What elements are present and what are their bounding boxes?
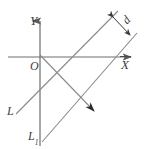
line-L1-stroke — [42, 33, 137, 142]
line-L-label: L — [7, 105, 14, 117]
line-L1-label-subscript: 1 — [35, 138, 39, 147]
line-L1-label-base: L — [28, 129, 35, 143]
geometry-figure: Y X O L L1 d — [0, 0, 147, 149]
origin-label: O — [30, 60, 39, 72]
transversal-line-stroke — [40, 55, 94, 111]
x-axis-label: X — [121, 58, 129, 71]
y-axis-label: Y — [30, 14, 37, 27]
line-L1-label: L1 — [28, 130, 38, 145]
